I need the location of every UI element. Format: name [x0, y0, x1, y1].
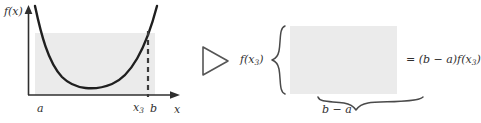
- result-equation-prefix: = (b − a)f(x: [406, 53, 472, 66]
- left-panel-graph: [25, 5, 180, 99]
- y-axis-label: f(x): [4, 6, 23, 17]
- tick-label-x3-sub: 3: [139, 106, 144, 115]
- y-axis-arrow-icon: [25, 5, 33, 14]
- rectangle-width-label: b − a: [322, 104, 352, 115]
- height-brace: [272, 26, 285, 94]
- separator-triangle: [203, 47, 228, 75]
- rectangle-height-label: f(x3): [240, 54, 264, 67]
- right-panel-rectangle: [272, 26, 423, 110]
- tick-label-x3: x3: [133, 102, 144, 115]
- rectangle-height-label-base: f(x: [240, 53, 255, 66]
- result-equation: = (b − a)f(x3): [406, 54, 481, 67]
- tick-label-b: b: [150, 103, 157, 114]
- x-axis-arrow-icon: [170, 91, 180, 99]
- result-equation-close: ): [476, 53, 480, 66]
- rectangle-height-label-close: ): [259, 53, 263, 66]
- triangle-right-outline-icon: [203, 47, 228, 75]
- tick-label-a: a: [37, 103, 44, 114]
- x-axis-label: x: [174, 104, 180, 115]
- equivalent-rectangle: [290, 26, 397, 94]
